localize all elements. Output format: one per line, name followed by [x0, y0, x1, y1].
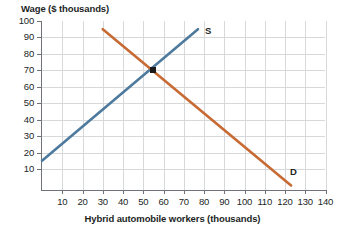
- y-axis-tick-label: 90: [24, 31, 34, 42]
- y-axis-tick-label: 70: [24, 64, 34, 75]
- y-axis-tick: [37, 54, 42, 55]
- y-axis-tick: [37, 70, 42, 71]
- demand-curve-label: D: [290, 166, 297, 177]
- y-axis-tick: [37, 169, 42, 170]
- x-axis-tick: [184, 190, 185, 194]
- supply-demand-chart: Wage ($ thousands) S D Hybrid automobile…: [0, 0, 345, 234]
- x-axis-tick: [265, 190, 266, 194]
- x-axis-tick-label: 140: [314, 196, 338, 207]
- y-axis-tick-label: 60: [24, 81, 34, 92]
- y-axis-tick: [37, 21, 42, 22]
- x-axis-tick: [204, 190, 205, 194]
- x-axis-tick: [326, 190, 327, 194]
- y-axis-tick-label: 20: [24, 147, 34, 158]
- y-axis-tick-label: 100: [19, 15, 34, 26]
- x-axis-tick: [62, 190, 63, 194]
- x-axis-tick: [245, 190, 246, 194]
- y-axis-tick: [37, 136, 42, 137]
- x-axis-tick: [143, 190, 144, 194]
- supply-curve: [42, 29, 198, 161]
- y-axis-tick: [37, 87, 42, 88]
- x-axis-title: Hybrid automobile workers (thousands): [0, 213, 345, 224]
- x-axis-tick: [224, 190, 225, 194]
- y-axis-tick-label: 40: [24, 114, 34, 125]
- y-axis-tick: [37, 120, 42, 121]
- x-axis-tick: [305, 190, 306, 194]
- y-axis-tick-label: 80: [24, 48, 34, 59]
- x-axis-tick: [164, 190, 165, 194]
- y-axis-tick: [37, 103, 42, 104]
- x-axis-tick: [123, 190, 124, 194]
- supply-curve-label: S: [205, 25, 211, 36]
- y-axis-tick-label: 50: [24, 97, 34, 108]
- x-axis-tick: [285, 190, 286, 194]
- y-axis-tick: [37, 153, 42, 154]
- demand-curve: [103, 29, 291, 185]
- y-axis-tick-label: 10: [24, 163, 34, 174]
- x-axis-tick: [103, 190, 104, 194]
- x-axis-tick: [83, 190, 84, 194]
- y-axis-tick: [37, 37, 42, 38]
- y-axis-tick-label: 30: [24, 130, 34, 141]
- equilibrium-point-marker: [150, 67, 156, 73]
